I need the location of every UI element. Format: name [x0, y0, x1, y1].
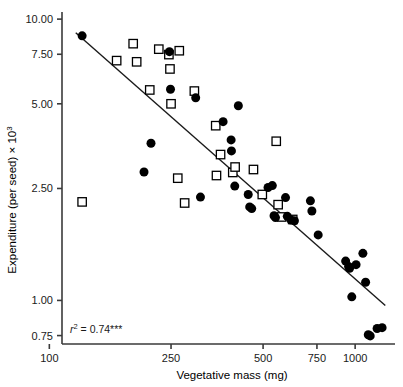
- data-point-square: [175, 47, 183, 55]
- data-point-square: [174, 174, 182, 182]
- data-point-circle: [191, 93, 200, 102]
- y-tick-label: 10.00: [25, 13, 53, 25]
- x-tick-label: 250: [162, 352, 180, 364]
- data-point-circle: [140, 168, 149, 177]
- data-point-square: [132, 58, 140, 66]
- data-point-circle: [378, 323, 387, 332]
- data-point-square: [146, 86, 154, 94]
- data-point-square: [272, 137, 280, 145]
- x-axis-tick-labels: 1002505007501000: [40, 352, 367, 364]
- y-axis-tick-labels: 10.007.505.002.501.000.75: [25, 13, 53, 341]
- data-point-circle: [147, 139, 156, 148]
- y-axis-title-exponent: 3: [5, 126, 14, 131]
- data-point-square: [78, 198, 86, 206]
- data-point-circle: [244, 190, 253, 199]
- data-point-circle: [196, 193, 205, 202]
- data-point-circle: [366, 331, 375, 340]
- y-axis-title: Expenditure (per seed) × 103: [5, 126, 18, 274]
- data-point-circle: [307, 206, 316, 215]
- data-point-circle: [281, 193, 290, 202]
- data-point-square: [112, 56, 120, 64]
- data-point-circle: [247, 204, 256, 213]
- data-point-circle: [352, 260, 361, 269]
- x-tick-label: 100: [40, 352, 58, 364]
- data-point-square: [212, 171, 220, 179]
- chart-canvas: 10.007.505.002.501.000.75 10025050075010…: [0, 0, 403, 387]
- data-point-circle: [227, 135, 236, 144]
- y-axis-title-base: Expenditure (per seed) × 10: [6, 131, 18, 274]
- r-squared-annotation: r2 = 0.74***: [70, 322, 122, 335]
- r-value: = 0.74***: [78, 323, 123, 335]
- data-point-circle: [165, 47, 174, 56]
- data-point-circle: [314, 230, 323, 239]
- y-tick-label: 7.50: [32, 48, 53, 60]
- y-tick-label: 2.50: [32, 182, 53, 194]
- data-point-circle: [268, 181, 277, 190]
- data-point-circle: [306, 196, 315, 205]
- data-point-circle: [361, 278, 370, 287]
- data-point-circle: [78, 31, 87, 40]
- data-point-square: [155, 45, 163, 53]
- data-point-circle: [234, 101, 243, 110]
- x-tick-label: 500: [254, 352, 272, 364]
- y-tick-label: 1.00: [32, 294, 53, 306]
- filled-circle-markers: [78, 31, 387, 340]
- data-point-square: [166, 65, 174, 73]
- data-point-square: [216, 150, 224, 158]
- data-point-circle: [227, 146, 236, 155]
- data-point-square: [258, 190, 266, 198]
- data-point-square: [212, 121, 220, 129]
- data-point-square: [249, 165, 257, 173]
- data-point-square: [180, 199, 188, 207]
- data-point-square: [129, 39, 137, 47]
- x-tick-label: 750: [308, 352, 326, 364]
- y-tick-label: 5.00: [32, 98, 53, 110]
- data-point-circle: [347, 292, 356, 301]
- data-point-circle: [219, 117, 228, 126]
- x-tick-label: 1000: [343, 352, 367, 364]
- data-point-circle: [358, 249, 367, 258]
- data-point-circle: [271, 213, 280, 222]
- data-point-circle: [230, 182, 239, 191]
- x-axis-title: Vegetative mass (mg): [176, 369, 287, 381]
- y-tick-label: 0.75: [32, 330, 53, 342]
- data-point-circle: [166, 85, 175, 94]
- data-point-square: [274, 200, 282, 208]
- data-point-square: [231, 163, 239, 171]
- data-point-circle: [290, 216, 299, 225]
- data-point-square: [167, 100, 175, 108]
- scatter-plot-figure: 10.007.505.002.501.000.75 10025050075010…: [0, 0, 403, 387]
